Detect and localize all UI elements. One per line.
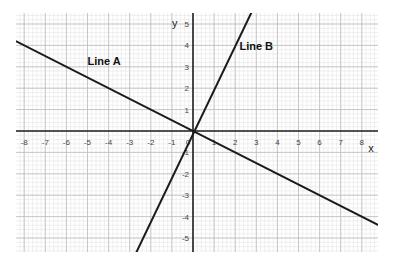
x-tick-label: -2 [147,138,155,147]
x-tick-label: -6 [63,138,71,147]
y-tick-label: -2 [182,170,190,179]
x-tick-label: -8 [21,138,29,147]
x-tick-label: 6 [317,138,322,147]
x-tick-label: -1 [168,138,176,147]
line-b-label: Line B [239,40,273,52]
y-tick-label: 3 [185,63,190,72]
x-tick-label: 7 [338,138,343,147]
y-tick-label: -3 [182,191,190,200]
x-tick-label: 5 [296,138,301,147]
x-tick-label: 4 [275,138,280,147]
x-tick-label: 2 [233,138,238,147]
x-tick-label: -4 [105,138,113,147]
y-tick-label: -5 [182,234,190,243]
y-tick-label: 4 [185,41,190,50]
y-tick-label: 1 [185,106,190,115]
x-axis-label: x [368,142,374,154]
y-tick-label: -4 [182,213,190,222]
y-tick-label: 5 [185,20,190,29]
y-tick-label: 2 [185,84,190,93]
coordinate-plane-chart: -8-7-6-5-4-3-2-1012345678-5-4-3-2-112345… [0,0,393,263]
x-tick-label: -5 [84,138,92,147]
x-tick-label: -3 [126,138,134,147]
x-tick-label: 8 [360,138,365,147]
y-axis-label: y [172,17,178,29]
x-tick-label: -7 [42,138,50,147]
x-tick-label: 3 [254,138,259,147]
line-a-label: Line A [88,55,121,67]
